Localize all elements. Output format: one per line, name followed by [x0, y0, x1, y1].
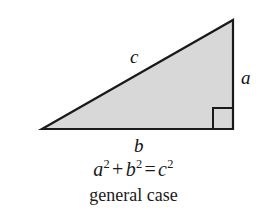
triangle-shape — [42, 20, 233, 129]
caption-block: a2+b2=c2 general case — [0, 158, 267, 207]
pythagorean-theorem-figure: c a b a2+b2=c2 general case — [0, 0, 267, 221]
equation-equals-operator: = — [142, 158, 158, 180]
pythagorean-equation: a2+b2=c2 — [0, 158, 267, 181]
vertical-leg-label: a — [241, 68, 251, 87]
equation-exponent-c: 2 — [167, 157, 174, 171]
hypotenuse-label: c — [130, 47, 138, 66]
equation-term-c: c — [158, 158, 167, 180]
equation-plus-operator: + — [110, 158, 126, 180]
horizontal-leg-label: b — [134, 136, 144, 155]
figure-caption: general case — [0, 185, 267, 207]
equation-term-a: a — [93, 158, 103, 180]
equation-term-b: b — [126, 158, 136, 180]
